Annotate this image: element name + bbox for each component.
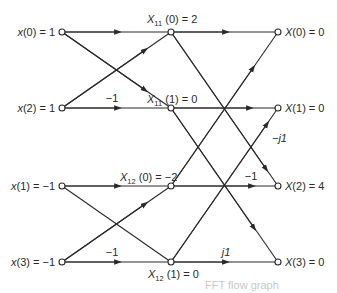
faint-caption: FFT flow graph [205,279,279,291]
output-label-X1: X(1) = 0 [284,102,324,114]
output-label-X3: X(3) = 0 [284,256,324,268]
node-x1 [59,183,65,189]
node-X3 [275,259,281,265]
node-X0 [275,29,281,35]
node-X12-0 [168,183,174,189]
label-X11-0: X11 (0) = 2 [146,13,197,28]
weight-x2-X11-1: −1 [106,92,119,104]
node-X12-1 [168,259,174,265]
stage1-edges [62,32,171,262]
label-X12-1: X12 (1) = 0 [147,268,199,283]
output-label-X0: X(0) = 0 [284,26,324,38]
input-labels: x(0) = 1 x(2) = 1 x(1) = −1 x(3) = −1 [10,26,55,268]
nodes [59,29,281,265]
input-label-x2: x(2) = 1 [16,102,55,114]
input-label-x1: x(1) = −1 [10,180,55,192]
input-label-x0: x(0) = 1 [16,26,55,38]
node-X1 [275,105,281,111]
node-X11-0 [168,29,174,35]
weight-X12-1-X1: −j1 [272,132,287,144]
node-X2 [275,183,281,189]
node-x2 [59,105,65,111]
weight-X12-1-X3: j1 [220,246,231,258]
fft-flow-graph: x(0) = 1 x(2) = 1 x(1) = −1 x(3) = −1 X1… [0,0,337,293]
output-labels: X(0) = 0 X(1) = 0 X(2) = 4 X(3) = 0 [284,26,324,268]
weight-X12-0-X2: −1 [245,170,258,182]
node-x3 [59,259,65,265]
weight-x3-X12-1: −1 [106,246,119,258]
input-label-x3: x(3) = −1 [10,256,55,268]
edge-weights: −1 −1 −1 −j1 j1 [106,92,287,258]
output-label-X2: X(2) = 4 [284,180,324,192]
stage2-edges [171,32,278,262]
intermediate-labels: X11 (0) = 2 X11 (1) = 0 X12 (0) = −2 X12… [119,13,199,283]
node-x0 [59,29,65,35]
node-X11-1 [168,105,174,111]
